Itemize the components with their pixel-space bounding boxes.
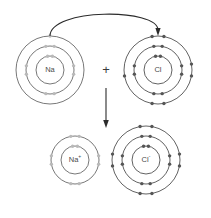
chlorine-atom-shell-1-electron-2 [159,55,162,58]
sodium-ion-label: Na+ [69,153,82,164]
chlorine-atom-shell-3-electron-2 [162,35,165,38]
chloride-ion-shell-3-electron-1 [138,125,141,128]
sodium-ion-shell-2-electron-1 [69,135,72,138]
chloride-ion-shell-2-electron-2 [148,135,151,138]
chlorine-atom-label: Cl [154,65,161,74]
chloride-ion-shell-3-electron-4 [178,164,181,167]
chloride-ion-shell-2-electron-6 [140,182,143,185]
sodium-atom-shell-1-electron-2 [51,55,54,58]
sodium-ion-shell-2-electron-4 [97,162,100,165]
chlorine-atom-shell-2-electron-2 [160,45,163,48]
chloride-ion-shell-2-electron-4 [168,162,171,165]
chloride-ion-shell-3-electron-6 [138,192,141,195]
chloride-ion-shell-2-electron-1 [140,135,143,138]
chlorine-atom-shell-3-electron-5 [162,102,165,105]
sodium-atom-shell-2-electron-1 [44,45,47,48]
sodium-ion-shell-2-electron-8 [50,154,53,157]
chlorine-atom-shell-1-electron-1 [154,55,157,58]
chlorine-atom-shell-2-electron-6 [152,92,155,95]
chloride-ion-shell-3-electron-2 [150,125,153,128]
chlorine-atom-shell-2-electron-4 [180,72,183,75]
chlorine-atom-shell-2-electron-7 [133,72,136,75]
electron-transfer-arrow [50,14,161,36]
chloride-ion-shell-3-electron-5 [150,192,153,195]
electron-transfer-arrow-line [50,14,158,36]
chlorine-atom-shell-3-electron-7 [123,74,126,77]
sodium-ion: Na+ [50,135,101,186]
chloride-ion: Cl- [111,125,181,195]
sodium-atom-shell-2-electron-7 [25,72,28,75]
chloride-ion-shell-1-electron-2 [147,145,150,148]
sodium-atom-shell-2-electron-3 [72,64,75,67]
chloride-ion-shell-3-electron-3 [178,152,181,155]
sodium-atom: Na [16,34,84,104]
plus-operator: + [102,62,110,77]
sodium-ion-shell-2-electron-7 [50,162,53,165]
sodium-ion-shell-2-electron-2 [77,135,80,138]
chlorine-atom-shell-2-electron-3 [180,64,183,67]
sodium-atom-shell-2-electron-8 [25,64,28,67]
electron-transfer-arrow-head [155,28,160,36]
sodium-atom-shell-2-electron-2 [52,45,55,48]
chlorine-atom-shell-3-electron-3 [190,62,193,65]
sodium-ion-shell-1-electron-2 [76,145,79,148]
chlorine-atom-shell-2-electron-5 [160,92,163,95]
chlorine-atom-shell-3-electron-6 [150,102,153,105]
chloride-ion-label: Cl- [142,153,151,164]
sodium-atom-shell-2-electron-6 [44,92,47,95]
chlorine-atom-shell-2-electron-1 [152,45,155,48]
chloride-ion-shell-2-electron-5 [148,182,151,185]
ionic-bonding-diagram: NaClNa+Cl-+ [0,0,211,218]
chlorine-atom: Cl [123,35,193,105]
sodium-ion-shell-1-electron-1 [71,145,74,148]
chlorine-atom-shell-3-electron-1 [150,35,153,38]
diagram-canvas: NaClNa+Cl-+ [0,0,211,218]
sodium-ion-shell-2-electron-5 [77,182,80,185]
sodium-ion-charge: + [78,153,81,159]
chloride-ion-shell-3-electron-8 [111,152,114,155]
chloride-ion-shell-2-electron-7 [121,162,124,165]
chloride-ion-shell-1-electron-1 [142,145,145,148]
chloride-ion-charge: - [149,153,151,159]
reaction-arrow [103,88,109,128]
sodium-atom-shell-1-electron-1 [46,55,49,58]
chlorine-atom-shell-2-electron-8 [133,64,136,67]
sodium-ion-shell-2-electron-3 [97,154,100,157]
reaction-arrow-head [103,120,109,128]
chloride-ion-shell-2-electron-3 [168,154,171,157]
chlorine-atom-shell-3-electron-4 [190,74,193,77]
chloride-ion-shell-2-electron-8 [121,154,124,157]
sodium-atom-label: Na [45,65,55,74]
sodium-ion-shell-2-electron-6 [69,182,72,185]
sodium-atom-shell-2-electron-4 [72,72,75,75]
sodium-atom-shell-2-electron-5 [52,92,55,95]
chloride-ion-shell-3-electron-7 [111,164,114,167]
